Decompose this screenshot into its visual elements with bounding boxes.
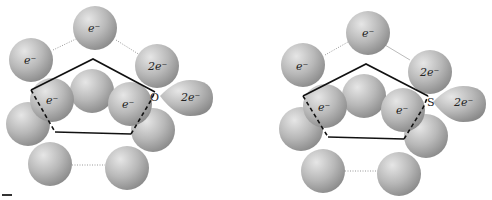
label-inner-right: e⁻ <box>122 98 135 111</box>
orbital-bottom-right <box>377 152 421 196</box>
panel-furan: e⁻ e⁻ 2e⁻ 2e⁻ e⁻ e⁻ O <box>6 6 213 190</box>
dotted-bond <box>53 38 78 50</box>
heteroatom-label: S <box>427 96 435 109</box>
label-upper-left: e⁻ <box>296 60 309 73</box>
dotted-bond <box>116 40 140 55</box>
orbital-center <box>342 74 386 118</box>
label-lone-pair: 2e⁻ <box>453 96 474 109</box>
panel-thiophene: e⁻ e⁻ 2e⁻ 2e⁻ e⁻ e⁻ S <box>279 11 486 196</box>
label-upper-right: 2e⁻ <box>419 66 440 79</box>
orbital-diagram: e⁻ e⁻ 2e⁻ 2e⁻ e⁻ e⁻ O e⁻ e⁻ 2e⁻ 2e⁻ e⁻ e… <box>0 0 492 200</box>
label-top: e⁻ <box>362 27 375 40</box>
orbital-bottom-left <box>28 142 72 186</box>
label-lone-pair: 2e⁻ <box>180 91 201 104</box>
heteroatom-label: O <box>150 91 159 104</box>
ring-solid-bottom <box>328 137 404 139</box>
ring-solid-bottom <box>55 132 131 134</box>
label-upper-left: e⁻ <box>24 54 37 67</box>
label-top: e⁻ <box>88 22 101 35</box>
caption-fragment <box>2 194 12 196</box>
label-upper-right: 2e⁻ <box>147 60 168 73</box>
label-inner-right: e⁻ <box>396 104 409 117</box>
label-inner-left: e⁻ <box>46 94 59 107</box>
orbital-center <box>70 69 114 113</box>
orbital-bottom-right <box>105 146 149 190</box>
orbital-bottom-left <box>301 149 345 193</box>
label-inner-left: e⁻ <box>318 101 331 114</box>
dotted-bond <box>385 45 410 60</box>
dotted-bond <box>325 42 348 55</box>
